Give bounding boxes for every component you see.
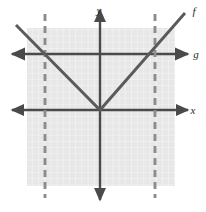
line-g-label: g <box>193 48 199 60</box>
x-axis-label: x <box>190 104 196 116</box>
graph-figure: y x f g <box>0 0 206 212</box>
y-axis-label: y <box>96 4 102 16</box>
coordinate-plane-svg: y x f g <box>0 0 206 212</box>
curve-f-label: f <box>192 5 197 17</box>
